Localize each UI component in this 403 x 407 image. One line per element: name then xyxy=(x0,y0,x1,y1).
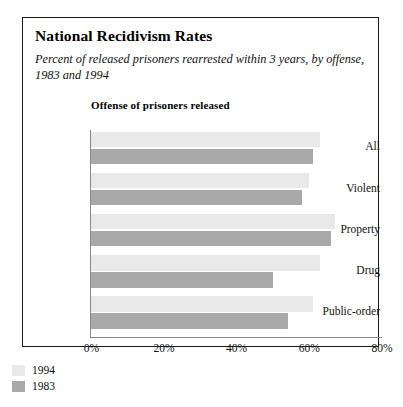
legend-item-1994: 1994 xyxy=(12,362,172,378)
bar-property-1983 xyxy=(91,231,331,247)
category-label-public-order: Public-order xyxy=(318,305,380,317)
bar-drug-1983 xyxy=(91,272,273,288)
running-head xyxy=(150,1,400,10)
x-tick-label-40pct: 40% xyxy=(226,342,247,354)
bar-all-1994 xyxy=(91,132,320,148)
bar-chart-plot-area: AllViolentPropertyDrugPublic-order 0%20%… xyxy=(23,18,380,348)
bar-violent-1994 xyxy=(91,173,309,189)
bar-public-order-1983 xyxy=(91,313,287,329)
bar-violent-1983 xyxy=(91,190,302,206)
x-tick-label-0pct: 0% xyxy=(84,342,99,354)
category-label-drug: Drug xyxy=(318,264,380,276)
x-tick-label-60pct: 60% xyxy=(299,342,320,354)
legend-label-1983: 1983 xyxy=(32,380,55,392)
bar-property-1994 xyxy=(91,214,334,230)
category-label-all: All xyxy=(318,140,380,152)
category-label-violent: Violent xyxy=(318,182,380,194)
bar-all-1983 xyxy=(91,149,313,165)
legend-item-1983: 1983 xyxy=(12,378,172,394)
legend-label-1994: 1994 xyxy=(32,364,55,376)
category-label-property: Property xyxy=(318,223,380,235)
legend-swatch-1983 xyxy=(12,381,25,392)
bar-public-order-1994 xyxy=(91,296,313,312)
x-axis-line xyxy=(90,337,382,338)
figure-box: National Recidivism Rates Percent of rel… xyxy=(22,17,379,347)
legend-swatch-1994 xyxy=(12,365,25,376)
x-tick-label-20pct: 20% xyxy=(153,342,174,354)
bar-drug-1994 xyxy=(91,255,320,271)
chart-legend: 19941983 xyxy=(12,362,172,394)
x-tick-label-80pct: 80% xyxy=(371,342,392,354)
